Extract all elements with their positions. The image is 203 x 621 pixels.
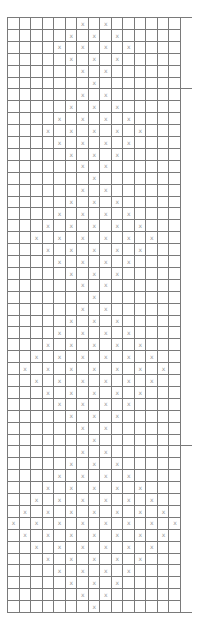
cross-stitch-mark-icon: x: [35, 354, 39, 360]
grid-cell: [168, 267, 180, 279]
grid-cell: [145, 29, 157, 41]
grid-cell: [168, 600, 180, 612]
cross-stitch-mark-icon: x: [92, 437, 96, 443]
grid-cell: [76, 386, 88, 398]
grid-cell: [168, 564, 180, 576]
grid-cell: [42, 184, 54, 196]
grid-cell: [145, 338, 157, 350]
grid-cell: [145, 88, 157, 100]
grid-cell: [65, 350, 77, 362]
grid-cell: [53, 160, 65, 172]
grid-cell: [19, 53, 31, 65]
grid-cell: [134, 148, 146, 160]
grid-cell: x: [122, 493, 134, 505]
grid-cell: [19, 541, 31, 553]
grid-cell: x: [122, 541, 134, 553]
grid-cell: x: [65, 386, 77, 398]
cross-stitch-mark-icon: x: [127, 378, 131, 384]
grid-cell: [99, 481, 111, 493]
grid-cell: [53, 445, 65, 457]
grid-cell: [76, 196, 88, 208]
grid-cell: [99, 53, 111, 65]
grid-cell: [42, 600, 54, 612]
grid-cell: [122, 576, 134, 588]
grid-cell: x: [99, 41, 111, 53]
grid-cell: [168, 124, 180, 136]
grid-cell: x: [65, 124, 77, 136]
grid-cell: [53, 576, 65, 588]
grid-cell: [157, 29, 169, 41]
grid-cell: x: [76, 160, 88, 172]
grid-cell: [111, 422, 123, 434]
grid-cell: [122, 362, 134, 374]
grid-cell: x: [88, 243, 100, 255]
grid-cell: [157, 279, 169, 291]
grid-cell: [157, 553, 169, 565]
grid-cell: x: [111, 29, 123, 41]
grid-cell: [88, 41, 100, 53]
cross-stitch-mark-icon: x: [127, 568, 131, 574]
grid-cell: [76, 505, 88, 517]
cross-stitch-mark-icon: x: [104, 306, 108, 312]
grid-cell: [122, 77, 134, 89]
grid-cell: [157, 255, 169, 267]
grid-cell: [134, 172, 146, 184]
grid-cell: x: [30, 374, 42, 386]
grid-cell: [168, 398, 180, 410]
grid-cell: [53, 338, 65, 350]
grid-cell: x: [99, 422, 111, 434]
grid-cell: [42, 517, 54, 529]
cross-stitch-mark-icon: x: [104, 163, 108, 169]
grid-cell: [7, 564, 19, 576]
grid-cell: [157, 41, 169, 53]
cross-stitch-mark-icon: x: [116, 556, 120, 562]
grid-cell: x: [42, 338, 54, 350]
grid-cell: [111, 291, 123, 303]
grid-cell: [76, 553, 88, 565]
cross-stitch-mark-icon: x: [116, 199, 120, 205]
grid-cell: x: [168, 517, 180, 529]
grid-cell: [168, 374, 180, 386]
grid-cell: [30, 112, 42, 124]
grid-cell: [134, 600, 146, 612]
grid-right-border: [180, 17, 181, 612]
grid-cell: x: [111, 196, 123, 208]
grid-cell: [134, 267, 146, 279]
grid-cell: [19, 88, 31, 100]
cross-stitch-mark-icon: x: [35, 544, 39, 550]
grid-cell: [30, 445, 42, 457]
grid-cell: x: [134, 243, 146, 255]
grid-cell: x: [42, 553, 54, 565]
grid-cell: [42, 267, 54, 279]
cross-stitch-mark-icon: x: [116, 56, 120, 62]
grid-cell: [168, 505, 180, 517]
grid-cell: [122, 267, 134, 279]
grid-cell: x: [88, 148, 100, 160]
grid-cell: x: [134, 505, 146, 517]
grid-cell: [145, 303, 157, 315]
grid-cell: [76, 267, 88, 279]
grid-cell: [157, 517, 169, 529]
cross-stitch-mark-icon: x: [81, 568, 85, 574]
grid-cell: x: [42, 386, 54, 398]
grid-cell: [42, 17, 54, 29]
grid-cell: [168, 445, 180, 457]
cross-stitch-mark-icon: x: [69, 366, 73, 372]
cross-stitch-mark-icon: x: [104, 592, 108, 598]
grid-cell: [76, 434, 88, 446]
grid-cell: [88, 231, 100, 243]
grid-cell: [145, 243, 157, 255]
grid-cell: [7, 398, 19, 410]
grid-cell: x: [111, 338, 123, 350]
grid-cell: [88, 17, 100, 29]
cross-stitch-mark-icon: x: [92, 294, 96, 300]
cross-stitch-mark-icon: x: [81, 497, 85, 503]
grid-cell: [157, 600, 169, 612]
grid-cell: x: [99, 136, 111, 148]
grid-cell: [99, 386, 111, 398]
grid-cell: [157, 481, 169, 493]
grid-cell: x: [111, 315, 123, 327]
grid-cell: [53, 410, 65, 422]
grid-cell: [30, 588, 42, 600]
grid-cell: [168, 279, 180, 291]
